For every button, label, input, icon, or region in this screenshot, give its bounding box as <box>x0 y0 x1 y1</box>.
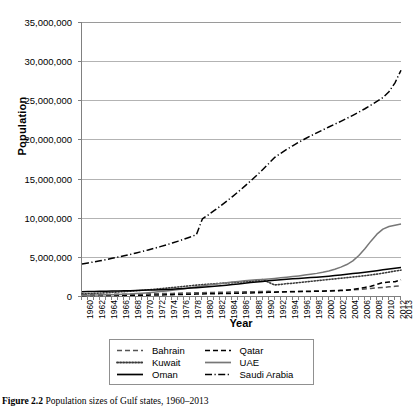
legend-key-saudi-arabia-icon <box>204 368 234 380</box>
y-tick-label: 35,000,000 <box>24 17 72 28</box>
x-tick-label: 2013 <box>404 300 414 319</box>
y-tick-label: 15,000,000 <box>24 173 72 184</box>
legend-label-kuwait[interactable]: Kuwait <box>146 356 194 368</box>
y-tick-label: 10,000,000 <box>24 212 72 223</box>
series-line-oman <box>82 268 401 292</box>
legend-label-uae[interactable]: UAE <box>234 356 307 368</box>
plot-area <box>81 22 401 297</box>
x-axis-title: Year <box>81 317 401 329</box>
legend-row: KuwaitUAE <box>116 356 307 368</box>
legend-column-gap <box>194 368 204 380</box>
legend-column-gap <box>194 344 204 356</box>
caption-prefix: Figure 2.2 <box>2 396 43 406</box>
legend-label-bahrain[interactable]: Bahrain <box>146 344 194 356</box>
y-axis-tick-labels: 05,000,00010,000,00015,000,00020,000,000… <box>0 0 78 300</box>
chart-legend: BahrainQatarKuwaitUAEOmanSaudi Arabia <box>109 339 314 385</box>
legend-label-saudi-arabia[interactable]: Saudi Arabia <box>234 368 307 380</box>
legend-key-kuwait-icon <box>116 356 146 368</box>
y-tick-label: 20,000,000 <box>24 134 72 145</box>
y-tick-label: 25,000,000 <box>24 95 72 106</box>
legend-label-oman[interactable]: Oman <box>146 368 194 380</box>
legend-key-oman-icon <box>116 368 146 380</box>
legend-row: BahrainQatar <box>116 344 307 356</box>
series-line-uae <box>82 224 401 295</box>
legend-key-bahrain-icon <box>116 344 146 356</box>
y-tick-label: 30,000,000 <box>24 56 72 67</box>
legend-column-gap <box>194 356 204 368</box>
legend-key-qatar-icon <box>204 344 234 356</box>
y-tick-label: 0 <box>67 291 72 302</box>
legend-row: OmanSaudi Arabia <box>116 368 307 380</box>
legend-table: BahrainQatarKuwaitUAEOmanSaudi Arabia <box>116 344 307 380</box>
y-tick-label: 5,000,000 <box>30 251 72 262</box>
legend-key-uae-icon <box>204 356 234 368</box>
caption-text: Population sizes of Gulf states, 1960–20… <box>45 396 208 406</box>
data-series-layer <box>82 22 401 296</box>
figure-caption: Figure 2.2 Population sizes of Gulf stat… <box>2 396 417 406</box>
legend-label-qatar[interactable]: Qatar <box>234 344 307 356</box>
series-line-saudi-arabia <box>82 70 401 264</box>
